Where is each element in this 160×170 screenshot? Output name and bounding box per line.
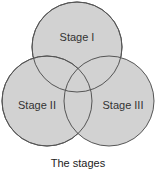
- label-stage-1: Stage I: [60, 31, 95, 43]
- label-stage-3: Stage III: [103, 99, 144, 111]
- caption: The stages: [51, 157, 106, 169]
- label-stage-2: Stage II: [18, 99, 56, 111]
- venn-diagram: Stage I Stage II Stage III The stages: [0, 0, 160, 170]
